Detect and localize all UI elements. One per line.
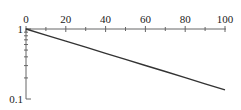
y-tick-label: 0.1 (9, 93, 23, 105)
tick-labels: 0204060801000.11 (9, 13, 234, 105)
x-tick-label: 40 (100, 13, 112, 25)
log-plot: 0204060801000.11 (0, 0, 241, 110)
y-tick-label: 1 (18, 23, 24, 35)
x-tick-label: 60 (140, 13, 152, 25)
x-tick-label: 100 (217, 13, 234, 25)
x-tick-label: 20 (60, 13, 72, 25)
data-line (26, 29, 225, 90)
x-tick-label: 0 (23, 13, 29, 25)
x-tick-label: 80 (180, 13, 192, 25)
